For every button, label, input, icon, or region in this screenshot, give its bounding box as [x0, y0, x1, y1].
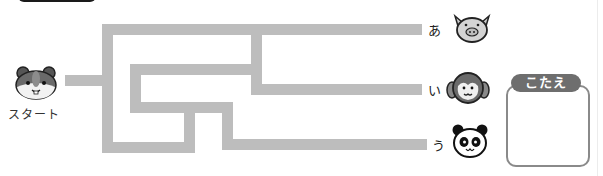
hamster-icon: [16, 67, 56, 99]
goal-label-a: あ: [428, 20, 441, 39]
start-label: スタート: [8, 105, 60, 122]
answer-box[interactable]: [506, 85, 590, 167]
goal-label-i: い: [428, 80, 441, 99]
answer-tag: こたえ: [511, 74, 581, 92]
pig-icon: [455, 16, 489, 42]
goal-label-u: う: [432, 135, 445, 154]
maze-paths: [65, 24, 427, 153]
panda-icon: [453, 125, 488, 158]
monkey-icon: [447, 73, 489, 103]
